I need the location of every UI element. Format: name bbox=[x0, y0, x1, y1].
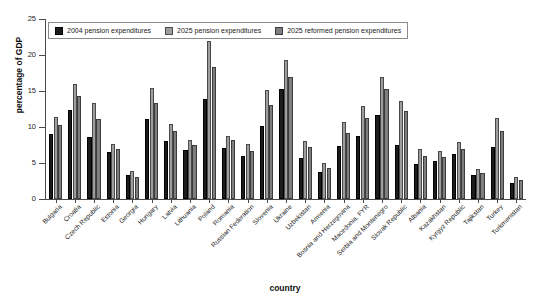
bar bbox=[145, 119, 149, 199]
bar-group bbox=[164, 19, 177, 199]
bar bbox=[169, 124, 173, 199]
bar bbox=[480, 173, 484, 199]
bar bbox=[207, 41, 211, 199]
y-axis-tick-label: 5 bbox=[14, 158, 36, 167]
x-axis-tick-label: Czech Republic bbox=[63, 203, 101, 241]
bar-group bbox=[375, 19, 388, 199]
bar bbox=[111, 144, 115, 199]
bar-group bbox=[318, 19, 331, 199]
bar bbox=[495, 118, 499, 199]
bar bbox=[260, 126, 264, 199]
bar bbox=[130, 171, 134, 199]
bar bbox=[77, 96, 81, 199]
bar bbox=[246, 144, 250, 199]
bar bbox=[356, 136, 360, 199]
legend-item-2025-reformed: 2025 reformed pension expenditures bbox=[275, 27, 401, 35]
x-axis-tick-label: Slovak Republic bbox=[370, 203, 408, 241]
bar-group bbox=[356, 19, 369, 199]
bar bbox=[342, 122, 346, 199]
bar bbox=[226, 136, 230, 199]
bar-group bbox=[452, 19, 465, 199]
bar bbox=[423, 156, 427, 199]
bar bbox=[250, 151, 254, 199]
bar bbox=[365, 118, 369, 199]
bar bbox=[241, 156, 245, 199]
bar bbox=[510, 183, 514, 199]
bar bbox=[222, 148, 226, 199]
bar bbox=[514, 177, 518, 199]
legend-swatch-2025-reformed bbox=[275, 27, 283, 35]
bar-group bbox=[222, 19, 235, 199]
bar-group bbox=[414, 19, 427, 199]
legend-swatch-2004 bbox=[55, 27, 63, 35]
bar bbox=[500, 131, 504, 199]
bar bbox=[96, 119, 100, 199]
x-axis-tick bbox=[440, 199, 441, 203]
bar bbox=[288, 77, 292, 199]
y-axis-tick-label: 0 bbox=[14, 194, 36, 203]
x-axis-title: country bbox=[45, 283, 525, 293]
bar-group bbox=[183, 19, 196, 199]
bar-group bbox=[433, 19, 446, 199]
x-axis-tick-label: Hungary bbox=[136, 203, 159, 226]
bar-group bbox=[299, 19, 312, 199]
bar bbox=[116, 149, 120, 199]
bar-group bbox=[241, 19, 254, 199]
bar bbox=[303, 141, 307, 199]
bar bbox=[318, 172, 322, 199]
legend-swatch-2025 bbox=[165, 27, 173, 35]
bar bbox=[337, 146, 341, 199]
bar bbox=[135, 177, 139, 199]
x-axis-tick bbox=[152, 199, 153, 203]
bar-group bbox=[49, 19, 62, 199]
bar bbox=[284, 60, 288, 199]
x-axis-tick bbox=[248, 199, 249, 203]
y-axis-tick-label: 25 bbox=[14, 14, 36, 23]
bar bbox=[380, 77, 384, 199]
bar bbox=[203, 99, 207, 199]
x-axis-tick-label: Estonia bbox=[100, 203, 121, 224]
bar bbox=[231, 140, 235, 199]
bars-layer bbox=[46, 19, 526, 199]
bar bbox=[192, 145, 196, 199]
bar bbox=[87, 137, 91, 199]
legend-item-2025: 2025 pension expenditures bbox=[165, 27, 261, 35]
bar bbox=[457, 142, 461, 199]
bar-group bbox=[471, 19, 484, 199]
bar bbox=[212, 67, 216, 199]
x-axis-tick-label: Kyrgyz Republic bbox=[427, 203, 466, 242]
y-axis-tick bbox=[39, 19, 46, 20]
bar-group bbox=[395, 19, 408, 199]
plot-area: 0510152025 bbox=[45, 19, 526, 200]
y-axis-tick bbox=[39, 91, 46, 92]
y-axis-tick bbox=[39, 127, 46, 128]
bar bbox=[476, 169, 480, 199]
y-axis-tick-label: 15 bbox=[14, 86, 36, 95]
bar bbox=[433, 161, 437, 199]
bar bbox=[375, 115, 379, 199]
bar bbox=[346, 133, 350, 199]
bar bbox=[54, 117, 58, 199]
bar bbox=[269, 105, 273, 199]
bar bbox=[308, 147, 312, 199]
bar bbox=[265, 90, 269, 199]
bar bbox=[438, 151, 442, 199]
bar bbox=[73, 84, 77, 199]
bar bbox=[154, 103, 158, 199]
bar bbox=[92, 103, 96, 199]
chart-legend: 2004 pension expenditures 2025 pension e… bbox=[48, 22, 408, 39]
bar bbox=[150, 88, 154, 199]
legend-item-2004: 2004 pension expenditures bbox=[55, 27, 151, 35]
bar-group bbox=[337, 19, 350, 199]
bar bbox=[58, 125, 62, 199]
y-axis-tick bbox=[39, 163, 46, 164]
bar bbox=[404, 111, 408, 199]
bar bbox=[107, 152, 111, 199]
bar bbox=[418, 149, 422, 199]
x-axis-tick-label: Latvia bbox=[160, 203, 177, 220]
y-axis-tick bbox=[39, 199, 46, 200]
bar bbox=[68, 110, 72, 199]
bar-chart-figure: percentage of GDP country 0510152025 Bul… bbox=[0, 0, 535, 303]
x-axis-tick-label: Bulgaria bbox=[40, 203, 62, 225]
bar-group bbox=[279, 19, 292, 199]
